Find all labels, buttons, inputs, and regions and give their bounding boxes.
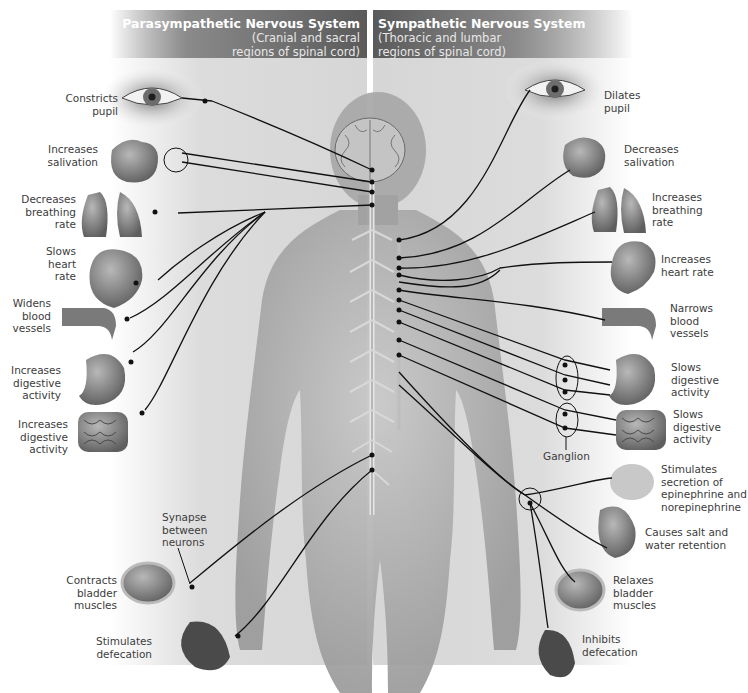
label-inhibits-defecation: Inhibits defecation — [582, 633, 662, 658]
human-body — [235, 92, 520, 693]
label-synapse-between-neurons: Synapse between neurons — [162, 511, 222, 549]
right-kidney-icon — [598, 507, 635, 558]
left-heart-icon — [90, 249, 143, 308]
left-ganglion-circle — [164, 148, 188, 172]
label-relaxes-bladder-muscles: Relaxes bladder muscles — [613, 574, 693, 612]
label-increases-salivation: Increases salivation — [10, 143, 98, 168]
right-salivary-glands-icon — [563, 137, 605, 177]
label-contracts-bladder-muscles: Contracts bladder muscles — [40, 574, 117, 612]
left-intestines-icon — [78, 412, 128, 452]
right-eye-icon — [505, 60, 605, 120]
left-bladder-icon — [122, 563, 174, 603]
label-increases-breathing-rate: Increases breathing rate — [652, 191, 742, 229]
label-ganglion: Ganglion — [543, 450, 603, 463]
label-decreases-salivation: Decreases salivation — [624, 143, 724, 168]
left-lungs-icon — [82, 192, 142, 237]
label-narrows-blood-vessels: Narrows blood vessels — [670, 302, 740, 340]
label-dilates-pupil: Dilates pupil — [604, 89, 684, 114]
synapse-pointer — [178, 548, 190, 584]
brain-icon — [335, 118, 405, 182]
label-stimulates-epinephrine-secretion: Stimulates secretion of epinephrine and … — [661, 463, 748, 513]
right-heart-icon — [611, 241, 656, 294]
label-increases-digestive-activity-intestines: Increases digestive activity — [0, 418, 68, 456]
left-rectum-icon — [181, 621, 230, 670]
label-increases-digestive-activity-stomach: Increases digestive activity — [0, 364, 61, 402]
right-adrenal-gland-icon — [610, 464, 654, 500]
right-blood-vessel-icon — [602, 308, 656, 340]
right-rectum-icon — [539, 630, 575, 677]
right-intestines-icon — [616, 410, 666, 450]
label-slows-digestive-activity-stomach: Slows digestive activity — [671, 361, 741, 399]
right-stomach-icon — [609, 354, 655, 405]
right-lungs-icon — [592, 187, 646, 233]
left-stomach-icon — [79, 354, 125, 405]
right-bladder-icon — [556, 570, 604, 610]
label-causes-salt-water-retention: Causes salt and water retention — [645, 526, 745, 551]
label-constricts-pupil: Constricts pupil — [20, 92, 118, 117]
label-widens-blood-vessels: Widens blood vessels — [0, 297, 51, 335]
left-salivary-glands-icon — [111, 140, 158, 183]
label-decreases-breathing-rate: Decreases breathing rate — [0, 193, 76, 231]
label-increases-heart-rate: Increases heart rate — [661, 253, 746, 278]
label-stimulates-defecation: Stimulates defecation — [60, 635, 152, 660]
left-blood-vessel-icon — [62, 308, 116, 340]
label-slows-digestive-activity-intestines: Slows digestive activity — [673, 408, 743, 446]
label-slows-heart-rate: Slows heart rate — [0, 245, 76, 283]
